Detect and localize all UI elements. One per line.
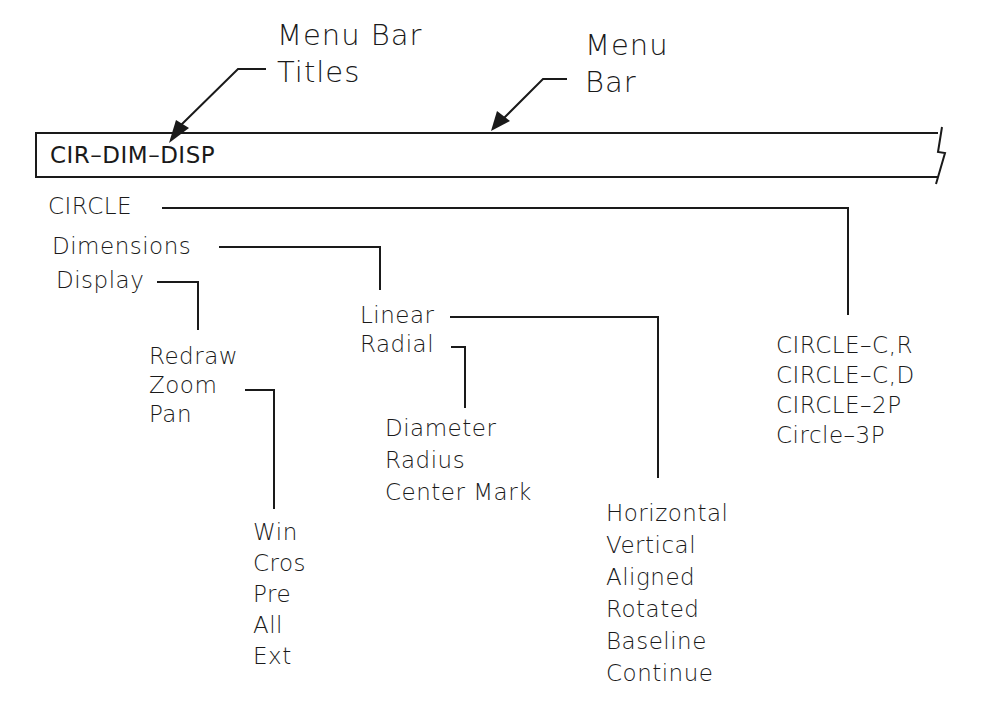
connector-dimensions xyxy=(219,247,380,290)
linear-submenu: Horizontal Vertical Aligned Rotated Base… xyxy=(606,497,728,689)
leader-menu-bar-titles xyxy=(180,69,266,126)
menu-item-center-mark[interactable]: Center Mark xyxy=(385,476,532,508)
menu-bar-title[interactable]: CIR–DIM–DISP xyxy=(50,141,215,170)
menu-item-all[interactable]: All xyxy=(253,610,306,641)
annotation-line: Bar xyxy=(585,64,669,101)
menu-item-aligned[interactable]: Aligned xyxy=(606,561,728,593)
menu-item-circle-c-d[interactable]: CIRCLE–C,D xyxy=(776,360,915,390)
connector-radial xyxy=(451,347,465,408)
menu-item-pre[interactable]: Pre xyxy=(253,579,306,610)
menu-item-ext[interactable]: Ext xyxy=(253,641,306,672)
menu-item-linear[interactable]: Linear xyxy=(360,301,434,330)
annotation-line: Menu Bar xyxy=(277,17,423,54)
menu-item-circle[interactable]: CIRCLE xyxy=(48,192,132,221)
menu-item-redraw[interactable]: Redraw xyxy=(149,342,238,371)
zoom-submenu: Win Cros Pre All Ext xyxy=(253,517,306,672)
leader-menu-bar xyxy=(504,79,567,118)
menu-item-radius[interactable]: Radius xyxy=(385,444,532,476)
circle-submenu: CIRCLE–C,R CIRCLE–C,D CIRCLE–2P Circle–3… xyxy=(776,330,915,450)
menu-item-display[interactable]: Display xyxy=(56,266,144,295)
connector-zoom xyxy=(245,390,274,509)
dimensions-submenu: Linear Radial xyxy=(360,301,434,359)
menu-bar: CIR–DIM–DISP xyxy=(36,133,940,176)
display-submenu: Redraw Zoom Pan xyxy=(149,342,238,429)
menu-item-diameter[interactable]: Diameter xyxy=(385,412,532,444)
menu-item-continue[interactable]: Continue xyxy=(606,657,728,689)
annotation-line: Titles xyxy=(277,54,423,91)
annotation-menu-bar-titles: Menu Bar Titles xyxy=(277,17,423,91)
menu-item-pan[interactable]: Pan xyxy=(149,400,238,429)
annotation-line: Menu xyxy=(585,27,669,64)
connector-display xyxy=(157,282,198,330)
menu-item-radial[interactable]: Radial xyxy=(360,330,434,359)
menu-item-circle-3p[interactable]: Circle–3P xyxy=(776,420,915,450)
menu-item-horizontal[interactable]: Horizontal xyxy=(606,497,728,529)
menu-item-cros[interactable]: Cros xyxy=(253,548,306,579)
menu-item-circle-2p[interactable]: CIRCLE–2P xyxy=(776,390,915,420)
menu-item-dimensions[interactable]: Dimensions xyxy=(52,232,191,261)
menu-item-rotated[interactable]: Rotated xyxy=(606,593,728,625)
connector-circle xyxy=(162,208,848,315)
menu-item-zoom[interactable]: Zoom xyxy=(149,371,238,400)
menu-item-baseline[interactable]: Baseline xyxy=(606,625,728,657)
radial-submenu: Diameter Radius Center Mark xyxy=(385,412,532,508)
menu-item-win[interactable]: Win xyxy=(253,517,306,548)
menu-item-vertical[interactable]: Vertical xyxy=(606,529,728,561)
menu-item-circle-c-r[interactable]: CIRCLE–C,R xyxy=(776,330,915,360)
annotation-menu-bar: Menu Bar xyxy=(585,27,669,101)
